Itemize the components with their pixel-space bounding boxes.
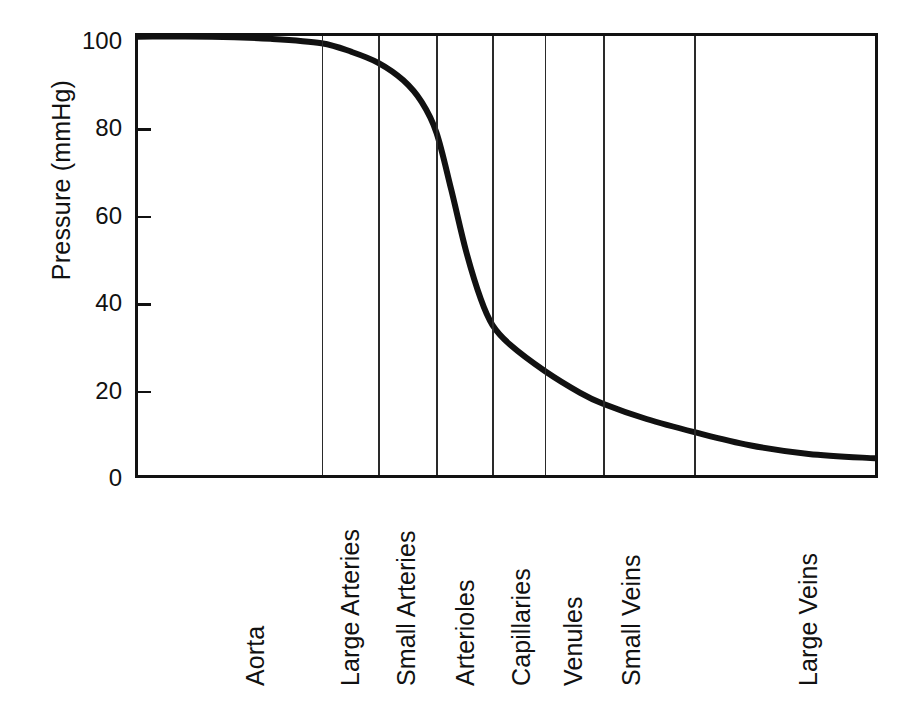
x-axis-label-group: AortaLarge ArteriesSmall ArteriesArterio… <box>0 0 904 721</box>
pressure-chart-figure: Pressure (mmHg) 100806040200 AortaLarge … <box>0 0 904 721</box>
x-category-label: Aorta <box>242 626 268 686</box>
x-category-label: Capillaries <box>508 568 534 686</box>
x-category-label: Large Arteries <box>337 529 363 686</box>
x-category-label: Small Veins <box>618 554 644 686</box>
x-category-label: Venules <box>560 596 586 686</box>
x-category-label: Small Arteries <box>393 530 419 686</box>
x-category-label: Arterioles <box>452 579 478 686</box>
x-category-label: Large Veins <box>795 553 821 686</box>
